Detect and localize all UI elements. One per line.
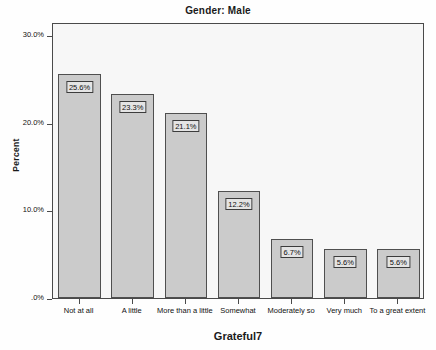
bar: 6.7% — [271, 239, 314, 298]
x-tick-mark — [79, 299, 80, 304]
bar-value-label: 25.6% — [66, 81, 93, 93]
y-tick-mark — [47, 36, 52, 37]
bar: 23.3% — [111, 94, 154, 298]
y-tick-label: 20.0% — [23, 118, 44, 127]
x-tick-mark — [344, 299, 345, 304]
x-tick-label: Not at all — [49, 306, 108, 315]
bar-value-label: 23.3% — [119, 101, 146, 113]
x-tick-mark — [238, 299, 239, 304]
y-axis-tick: .0% — [0, 299, 52, 300]
x-tick-label: To a great extent — [368, 306, 427, 315]
bar-value-label: 12.2% — [225, 198, 252, 210]
bar-value-label: 5.6% — [334, 256, 357, 268]
bar: 5.6% — [324, 249, 367, 298]
y-axis-tick: 30.0% — [0, 36, 52, 37]
plot-area: 25.6%23.3%21.1%12.2%6.7%5.6%5.6% — [52, 23, 424, 299]
y-tick-mark — [47, 124, 52, 125]
bar-value-label: 5.6% — [387, 256, 410, 268]
x-tick-label: A little — [102, 306, 161, 315]
y-tick-label: .0% — [31, 293, 44, 302]
y-tick-mark — [47, 299, 52, 300]
x-tick-label: Moderately so — [262, 306, 321, 315]
y-tick-label: 30.0% — [23, 30, 44, 39]
x-tick-mark — [185, 299, 186, 304]
bar: 21.1% — [165, 113, 208, 298]
x-tick-mark — [132, 299, 133, 304]
chart-container: Gender: Male Percent 25.6%23.3%21.1%12.2… — [0, 0, 436, 350]
bar: 25.6% — [58, 74, 101, 298]
y-axis-tick: 10.0% — [0, 211, 52, 212]
y-axis-tick: 20.0% — [0, 124, 52, 125]
x-tick-mark — [397, 299, 398, 304]
chart-title: Gender: Male — [0, 5, 436, 16]
y-tick-label: 10.0% — [23, 205, 44, 214]
x-tick-label: More than a little — [155, 306, 214, 315]
x-tick-label: Somewhat — [208, 306, 267, 315]
plot-inner: 25.6%23.3%21.1%12.2%6.7%5.6%5.6% — [53, 24, 423, 298]
x-axis-title: Grateful7 — [52, 330, 424, 342]
bar-value-label: 6.7% — [281, 246, 304, 258]
bar: 12.2% — [218, 191, 261, 298]
bar-value-label: 21.1% — [172, 120, 199, 132]
y-axis-title: Percent — [11, 120, 21, 190]
x-tick-mark — [291, 299, 292, 304]
x-tick-label: Very much — [315, 306, 374, 315]
y-tick-mark — [47, 211, 52, 212]
bar: 5.6% — [377, 249, 420, 298]
